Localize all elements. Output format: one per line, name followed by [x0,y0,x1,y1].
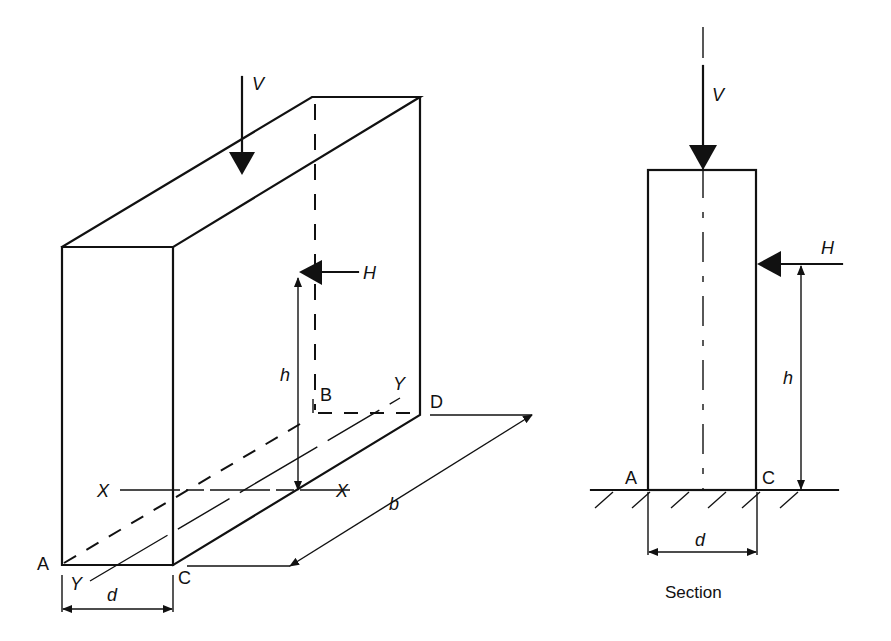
b-dim-label: b [389,494,399,514]
section-h-arrowhead [757,251,781,277]
v-load-arrowhead [229,152,255,175]
h-label: H [363,263,377,283]
d-dim-label: d [107,585,118,605]
ground-hatching [595,492,798,508]
section-corner-a-label: A [625,468,637,488]
v-label: V [252,74,266,94]
h-load-arrowhead [299,260,322,285]
section-view: V H h d A C Section [591,27,842,602]
section-v-label: V [712,85,726,105]
front-face [62,247,173,565]
axis-y-bottom-label: Y [70,574,84,594]
section-h-dim-label: h [783,368,793,388]
corner-b-label: B [320,385,332,405]
section-caption: Section [665,583,722,602]
corner-c-label: C [178,568,191,588]
axis-y-top-label: Y [393,374,407,394]
wall-diagram: V H h b d A B C D X X Y Y [0,0,891,641]
section-h-label: H [821,238,835,258]
axis-x-right-label: X [335,481,349,501]
corner-d-label: D [430,392,443,412]
corner-a-label: A [37,554,49,574]
isometric-view: V H h b d A B C D X X Y Y [37,74,532,612]
h-dim-label: h [280,365,290,385]
section-corner-c-label: C [762,468,775,488]
section-d-dim-label: d [695,530,706,550]
section-v-arrowhead [689,145,717,170]
section-outline [648,170,756,490]
right-face [173,97,420,565]
axis-x-left-label: X [96,481,110,501]
